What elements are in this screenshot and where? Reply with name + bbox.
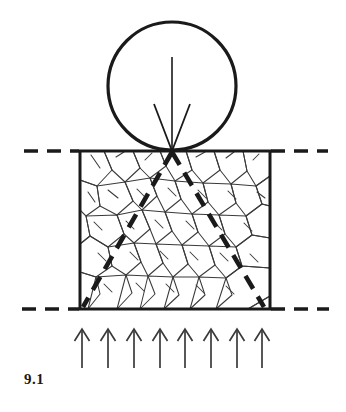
figure-container: 9.1 (0, 0, 346, 412)
reaction-arrow (230, 329, 245, 368)
applied-load-arrow (154, 57, 190, 151)
reaction-arrow (178, 329, 193, 368)
reaction-arrow (101, 329, 116, 368)
reaction-arrow (255, 329, 270, 368)
figure-caption: 9.1 (24, 372, 44, 387)
reaction-arrow (153, 329, 168, 368)
reaction-load-arrows (75, 329, 270, 368)
indentation-diagram (0, 0, 346, 412)
reaction-arrow (204, 329, 219, 368)
reaction-arrow (75, 329, 90, 368)
specimen-block-fill (80, 151, 270, 309)
reaction-arrow (127, 329, 142, 368)
